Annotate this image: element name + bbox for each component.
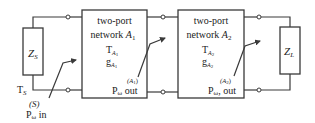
network-a2-port-tag: (A2) — [220, 77, 231, 85]
power-in-arrow — [49, 60, 76, 98]
network-a1-port-tag: (A1) — [127, 77, 138, 85]
network-a2-power-out: Pω, out — [208, 85, 236, 97]
terminal-node — [161, 90, 165, 94]
network-a2-title-line1: two-port — [194, 15, 229, 26]
two-port-network-a1: two-port network A1 TA1 gA1 (A1) Pω out — [82, 10, 147, 98]
interstage-wiring — [147, 17, 178, 92]
terminal-node — [257, 15, 261, 19]
terminal-node — [66, 88, 70, 92]
network-a1-title-line1: two-port — [97, 15, 132, 26]
source-port-tag: (S) — [29, 99, 40, 109]
terminal-node — [161, 15, 165, 19]
terminal-node — [257, 88, 261, 92]
source-impedance-zs: ZS — [23, 28, 43, 75]
source-temperature-label: TS — [17, 84, 27, 97]
cascaded-two-port-diagram: ZS TS (S) Pω in two-port network A1 TA1 … — [0, 0, 315, 123]
network-a1-power-out: Pω out — [112, 85, 138, 97]
terminal-node — [66, 15, 70, 19]
two-port-network-a2: two-port network A2 TA2 gA2 (A2) Pω, out — [178, 10, 244, 98]
source-power-label: Pω in — [26, 109, 46, 121]
load-impedance-zl: ZL — [280, 27, 300, 74]
